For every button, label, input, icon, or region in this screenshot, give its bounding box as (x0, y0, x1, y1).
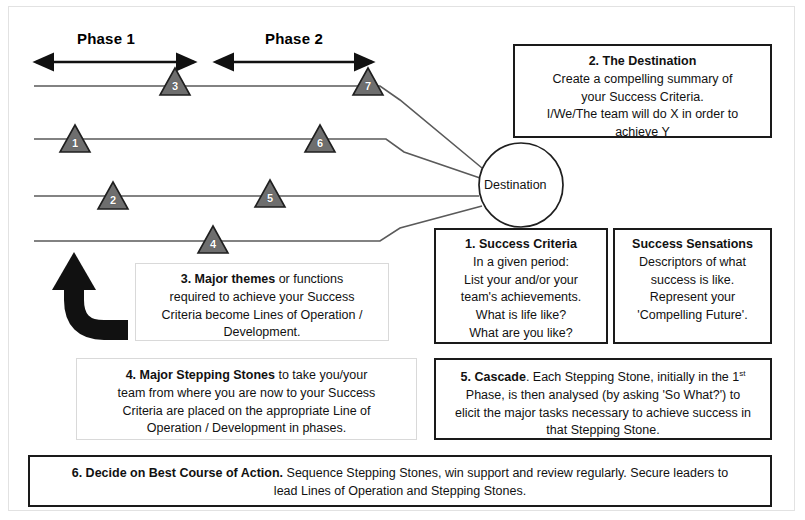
success-criteria-line-5: What are you like? (442, 325, 600, 343)
success-sensations-line-2: success is like. (621, 272, 764, 290)
major-stepping-stones-lead: 4. Major Stepping Stones (126, 368, 275, 382)
major-stepping-stones-box: 4. Major Stepping Stones to take you/you… (76, 358, 417, 440)
line-of-operation-2 (34, 139, 480, 178)
success-sensations-line-4: 'Compelling Future'. (621, 307, 764, 325)
major-themes-line-3: Development. (144, 324, 380, 342)
stepping-stone-5-number: 5 (260, 192, 280, 204)
major-stepping-stones-first-line-rest: to take you/your (275, 368, 367, 382)
destination-box-line-2: your Success Criteria. (523, 89, 762, 107)
major-stepping-stones-line-3: Operation / Development in phases. (85, 420, 408, 438)
success-criteria-box: 1. Success Criteria In a given period: L… (434, 228, 608, 344)
cascade-line-3: that Stepping Stone. (444, 422, 762, 440)
success-criteria-line-2: List your and/or your (442, 272, 600, 290)
success-criteria-line-3: team's achievements. (442, 289, 600, 307)
stepping-stone-1-number: 1 (65, 137, 85, 149)
success-criteria-line-4: What is life like? (442, 307, 600, 325)
success-criteria-line-1: In a given period: (442, 254, 600, 272)
cascade-box: 5. Cascade. Each Stepping Stone, initial… (434, 358, 772, 440)
phase-1-label: Phase 1 (77, 30, 135, 47)
destination-box: 2. The Destination Create a compelling s… (513, 44, 772, 138)
destination-box-line-4: achieve Y (523, 124, 762, 142)
success-criteria-heading: 1. Success Criteria (465, 237, 577, 251)
success-sensations-box: Success Sensations Descriptors of what s… (613, 228, 772, 344)
cascade-first-line-rest: . Each Stepping Stone, initially in the … (526, 370, 746, 384)
destination-box-heading: 2. The Destination (589, 54, 697, 68)
stepping-stone-4-number: 4 (203, 238, 223, 250)
stepping-stone-7-number: 7 (358, 80, 378, 92)
best-course-lead: 6. Decide on Best Course of Action. (72, 466, 283, 480)
cascade-line-2: elicit the major tasks necessary to achi… (444, 405, 762, 423)
success-sensations-line-1: Descriptors of what (621, 254, 764, 272)
stepping-stone-3-number: 3 (165, 80, 185, 92)
diagram-canvas: Phase 1 Phase 2 3 7 1 6 2 5 4 Destinatio… (0, 0, 805, 520)
major-stepping-stones-line-1: team from where you are now to your Succ… (85, 385, 408, 403)
destination-box-line-3: I/We/The team will do X in order to (523, 106, 762, 124)
major-themes-first-line-rest: or functions (275, 272, 343, 286)
phase-2-label: Phase 2 (265, 30, 323, 47)
best-course-line-1: lead Lines of Operation and Stepping Sto… (40, 483, 760, 501)
cascade-curved-arrow (52, 252, 128, 330)
best-course-first-line-rest: Sequence Stepping Stones, win support an… (283, 466, 728, 480)
major-themes-box: 3. Major themes or functions required to… (135, 263, 389, 341)
destination-box-line-1: Create a compelling summary of (523, 71, 762, 89)
cascade-line-1: Phase, is then analysed (by asking 'So W… (444, 387, 762, 405)
line-of-operation-4 (34, 206, 482, 241)
success-sensations-line-3: Represent your (621, 289, 764, 307)
destination-label: Destination (484, 178, 547, 192)
major-themes-line-2: Criteria become Lines of Operation / (144, 307, 380, 325)
major-themes-lead: 3. Major themes (181, 272, 275, 286)
stepping-stone-2-number: 2 (103, 194, 123, 206)
best-course-of-action-box: 6. Decide on Best Course of Action. Sequ… (28, 455, 772, 507)
major-stepping-stones-line-2: Criteria are placed on the appropriate L… (85, 403, 408, 421)
success-sensations-heading: Success Sensations (632, 237, 753, 251)
stepping-stone-6-number: 6 (310, 137, 330, 149)
major-themes-line-1: required to achieve your Success (144, 289, 380, 307)
cascade-lead: 5. Cascade (461, 370, 526, 384)
